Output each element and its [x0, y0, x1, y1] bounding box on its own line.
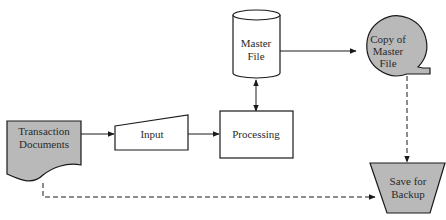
node-label: Master: [241, 37, 272, 49]
flowchart-canvas: Transaction Documents Input Processing M…: [0, 0, 446, 220]
node-label: Save for: [390, 175, 427, 187]
node-label: Transaction: [18, 125, 70, 137]
node-label: Copy of: [370, 33, 406, 45]
node-label: Documents: [19, 138, 69, 150]
node-transaction-documents[interactable]: Transaction Documents: [7, 121, 81, 181]
node-label: Processing: [232, 128, 280, 140]
node-label: Input: [140, 128, 163, 140]
edge-documents-to-backup: [43, 183, 375, 197]
node-label: Backup: [391, 188, 425, 200]
node-label: File: [247, 50, 264, 62]
cylinder-top: [233, 10, 280, 20]
node-save-for-backup[interactable]: Save for Backup: [370, 163, 445, 213]
node-label: File: [379, 57, 396, 69]
node-processing[interactable]: Processing: [220, 111, 293, 158]
node-input[interactable]: Input: [115, 115, 188, 150]
node-master-file[interactable]: Master File: [233, 10, 280, 78]
node-label: Master: [373, 45, 404, 57]
node-copy-master-file[interactable]: Copy of Master File: [367, 16, 430, 76]
